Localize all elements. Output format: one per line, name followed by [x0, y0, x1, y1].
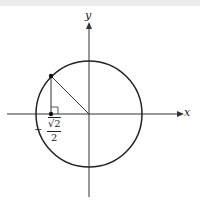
circle-point: [49, 74, 53, 78]
minus-sign: −: [34, 124, 42, 135]
diagram-canvas: [0, 0, 200, 200]
unit-circle-diagram: y x − √2 2: [0, 0, 200, 200]
x-axis-arrow-icon: [177, 111, 184, 117]
y-axis-label: y: [85, 9, 91, 22]
numerator: √2: [48, 118, 61, 129]
y-axis-arrow-icon: [86, 22, 92, 29]
denominator: 2: [51, 132, 57, 143]
radius-line: [51, 76, 89, 114]
x-axis-label: x: [184, 106, 190, 119]
foot-point: [49, 112, 53, 116]
